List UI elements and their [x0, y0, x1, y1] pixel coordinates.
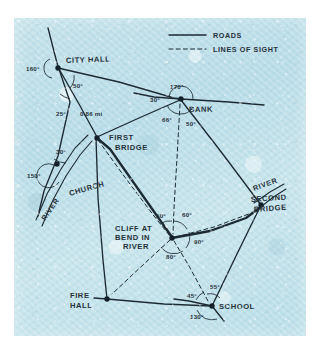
label-cliff-line2: BEND IN [115, 233, 150, 242]
roads-layer [38, 28, 264, 321]
label-cliff-line3: RIVER [123, 242, 149, 251]
label-river-right: RIVER [252, 176, 279, 193]
label-city-hall: CITY HALL [66, 54, 111, 65]
label-angle-cliff-east: 90° [194, 238, 204, 245]
label-angle-bank-straight: 170° [170, 83, 184, 90]
label-church: CHURCH [68, 179, 105, 198]
point-cliff[interactable] [169, 235, 174, 240]
label-angle-church-exterior: 150° [27, 172, 41, 179]
road-bank-to-second-bridge [181, 100, 261, 205]
arc-city-hall-exterior [44, 59, 52, 78]
label-angle-bank-south: 50° [186, 120, 196, 127]
legend: ROADS LINES OF SIGHT [169, 31, 279, 54]
road-first-bridge-to-cliff [97, 138, 172, 237]
label-angle-bank-west: 30° [150, 96, 160, 103]
point-city-hall[interactable] [55, 65, 60, 70]
point-church[interactable] [54, 161, 59, 166]
arc-school-west [196, 292, 204, 300]
label-angle-school-north: 55° [210, 283, 220, 290]
label-angle-city-hall-interior: 50° [73, 82, 83, 89]
label-angle-cliff-south: 80° [166, 253, 176, 260]
label-angle-school-south: 130° [190, 313, 204, 320]
label-angle-school-west: 45° [187, 292, 197, 299]
legend-sight-label: LINES OF SIGHT [213, 45, 279, 54]
point-bank[interactable] [178, 96, 183, 101]
distance-labels-layer: 0.86 mi [80, 110, 102, 117]
label-angle-cliff-northwest: 50° [156, 212, 166, 219]
point-school[interactable] [209, 303, 214, 308]
label-first-bridge-line2: BRIDGE [115, 143, 148, 152]
arc-cliff-ne [174, 221, 187, 229]
angle-labels-layer: 160° 50° 25° 170° 30° 66° 50° 30° 150° 5… [26, 65, 220, 320]
map-drawing: CITY HALL BANK FIRST BRIDGE CHURCH CLIFF… [14, 18, 306, 336]
label-river-left: RIVER [39, 196, 61, 222]
label-angle-city-hall-exterior: 160° [26, 65, 40, 72]
label-school: SCHOOL [219, 302, 255, 311]
arc-bank-sight [167, 105, 179, 114]
label-cliff-line1: CLIFF AT [115, 224, 152, 233]
label-fire-hall-line1: FIRE [70, 291, 90, 300]
map-canvas: CITY HALL BANK FIRST BRIDGE CHURCH CLIFF… [14, 18, 306, 336]
label-distance-city-hall-first-bridge: 0.86 mi [80, 110, 102, 117]
point-first-bridge[interactable] [94, 135, 99, 140]
legend-roads-label: ROADS [213, 31, 242, 40]
label-bank: BANK [189, 105, 213, 114]
label-first-bridge-line1: FIRST [109, 133, 134, 142]
road-first-bridge-to-fire-hall [96, 138, 107, 299]
label-fire-hall-line2: HALL [70, 301, 92, 310]
angle-arcs-layer [37, 59, 220, 320]
label-angle-bank-sight: 66° [162, 116, 172, 123]
sight-first-bridge-to-cliff [98, 140, 170, 236]
point-fire-hall[interactable] [104, 296, 109, 301]
label-second-bridge-line2: BRIDGE [254, 203, 287, 214]
label-angle-cliff-northeast: 60° [182, 211, 192, 218]
sight-bank-to-cliff [173, 104, 180, 234]
road-second-bridge-to-school [212, 205, 261, 306]
label-angle-church-upper: 30° [56, 148, 66, 155]
label-angle-city-hall-lower: 25° [56, 110, 66, 117]
